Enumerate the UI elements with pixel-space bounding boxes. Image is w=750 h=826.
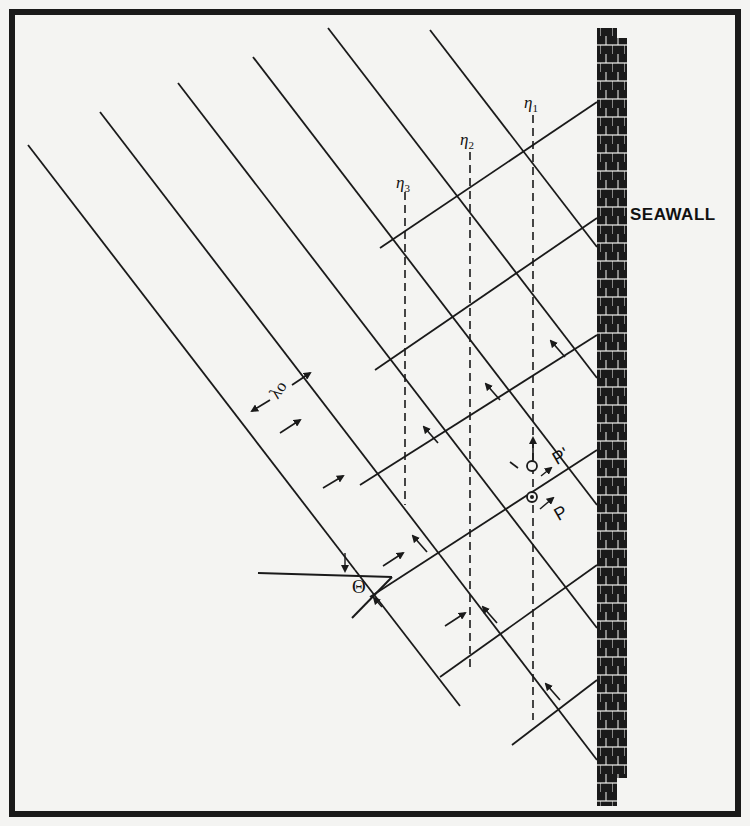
- seawall: [597, 28, 627, 806]
- incident-crest-line: [355, 570, 460, 706]
- incident-crest-line: [253, 57, 597, 505]
- point-p-prime-marker: [527, 461, 537, 471]
- incident-crest-line: [100, 112, 440, 555]
- diagram-canvas: [0, 0, 750, 826]
- eta3-label: η3: [396, 173, 410, 194]
- incident-wave-crests: [28, 28, 597, 760]
- incident-crest-line: [430, 30, 597, 247]
- reflected-crest-line: [440, 565, 597, 677]
- incident-crest-line: [440, 555, 597, 760]
- eta1-label: η1: [524, 93, 538, 114]
- wave-direction-arrows: [280, 341, 565, 700]
- eta-dashed-lines: [405, 115, 533, 720]
- eta2-label: η2: [460, 130, 474, 151]
- reflected-wave-crests: [360, 102, 597, 745]
- reflected-crest-line: [375, 218, 597, 370]
- reflected-crest-line: [380, 102, 597, 248]
- angle-indicator: [258, 553, 392, 618]
- figure-border: [12, 12, 738, 814]
- seawall-label: SEAWALL: [630, 205, 716, 225]
- angle-theta-label: Θ: [352, 576, 366, 598]
- wave-reflection-diagram: SEAWALL η1 η2 η3 λo Θ P' P: [0, 0, 750, 826]
- incident-crest-line: [28, 145, 355, 570]
- incident-crest-line: [328, 28, 597, 378]
- reflected-crest-line: [512, 680, 597, 745]
